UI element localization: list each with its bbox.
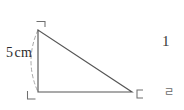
right-triangle-outline [38, 30, 132, 92]
geometry-figure: 5cm 1 ㄹ [0, 0, 184, 110]
side-length-label: 5cm [2, 44, 36, 62]
side-length-value: 5 [6, 45, 13, 60]
vertex-mark-top-icon [37, 22, 46, 28]
right-edge-number-text: 1 [162, 32, 184, 50]
bottom-right-edge-glyph: ㄹ [164, 86, 184, 99]
vertex-mark-bottom-left-icon [28, 91, 36, 99]
side-length-unit: cm [15, 45, 33, 60]
vertex-mark-bottom-right-icon [137, 90, 143, 98]
